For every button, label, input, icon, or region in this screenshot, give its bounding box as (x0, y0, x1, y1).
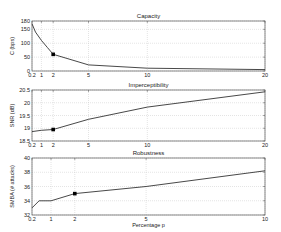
y-tick-label: 150 (21, 26, 30, 32)
subplot-title: Robustness (133, 150, 165, 156)
x-axis-label: Percentage p (132, 222, 165, 228)
data-marker (51, 128, 55, 132)
y-tick-label: 36 (24, 184, 30, 190)
data-line (32, 24, 265, 70)
x-tick-label: 20 (262, 72, 268, 78)
x-tick-label: 20 (262, 142, 268, 148)
y-axis-label: SNR (dB) (9, 104, 15, 128)
y-tick-label: 34 (24, 198, 30, 204)
subplot-title: Imperceptibility (128, 82, 168, 88)
y-axis-label: SMBA (# attacks) (9, 165, 15, 208)
subplot-title: Capacity (137, 13, 160, 19)
y-tick-label: 18.5 (19, 138, 30, 144)
y-tick-label: 32 (24, 212, 30, 218)
x-tick-label: 1 (40, 142, 43, 148)
y-tick-label: 100 (21, 40, 30, 46)
subplot-imperceptibility: 0.2125102018.51919.52020.5Imperceptibili… (9, 82, 268, 148)
data-marker (73, 192, 77, 196)
x-tick-label: 2 (52, 72, 55, 78)
x-tick-label: 2 (73, 216, 76, 222)
y-tick-label: 19 (24, 125, 30, 131)
data-marker (51, 53, 55, 57)
y-tick-label: 20 (24, 100, 30, 106)
y-tick-label: 180 (21, 18, 30, 24)
x-tick-label: 10 (144, 142, 150, 148)
axes-frame (32, 21, 265, 71)
subplot-capacity: 0.21251020050100150180CapacityC (bps) (9, 13, 268, 78)
x-tick-label: 1 (40, 72, 43, 78)
y-tick-label: 50 (24, 54, 30, 60)
x-tick-label: 5 (87, 72, 90, 78)
y-tick-label: 19.5 (19, 113, 30, 119)
y-axis-label: C (bps) (9, 37, 15, 55)
data-line (32, 92, 265, 132)
x-tick-label: 10 (262, 216, 268, 222)
x-tick-label: 2 (52, 142, 55, 148)
subplot-robustness: 0.2125103234363840RobustnessSMBA (# atta… (9, 150, 268, 228)
x-tick-label: 5 (87, 142, 90, 148)
x-tick-label: 10 (144, 72, 150, 78)
y-tick-label: 0 (27, 68, 30, 74)
data-line (32, 171, 265, 208)
y-tick-label: 38 (24, 169, 30, 175)
figure: 0.21251020050100150180CapacityC (bps)0.2… (0, 0, 281, 232)
y-tick-label: 20.5 (19, 87, 30, 93)
y-tick-label: 40 (24, 155, 30, 161)
x-tick-label: 1 (49, 216, 52, 222)
